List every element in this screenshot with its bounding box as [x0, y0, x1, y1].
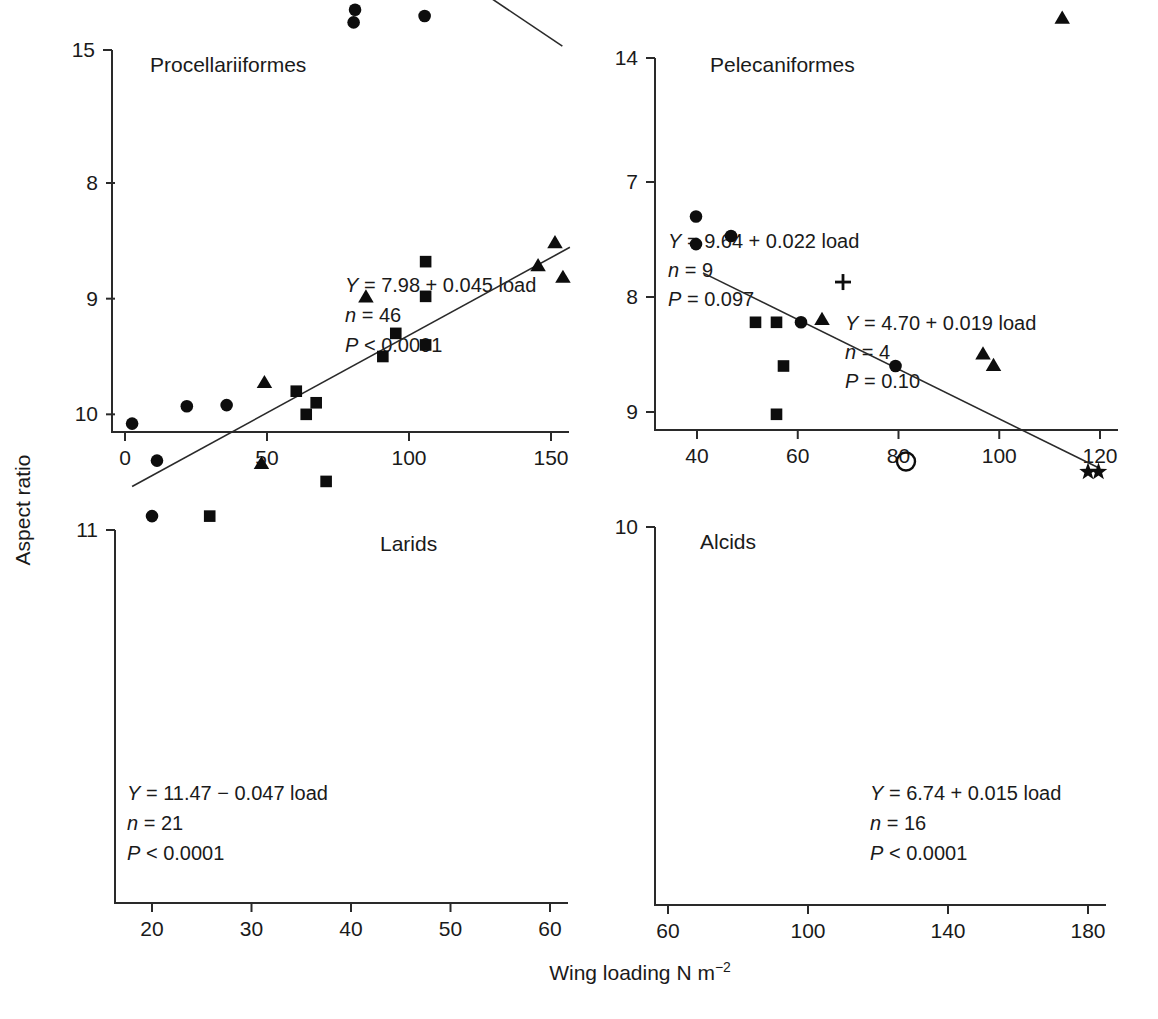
x-tick-label: 60 — [786, 444, 809, 467]
x-tick-label: 100 — [982, 444, 1017, 467]
data-point-square — [771, 317, 783, 329]
y-axis-title: Aspect ratio — [11, 455, 34, 566]
data-point-circle — [220, 399, 233, 412]
y-tick-label: 7 — [626, 170, 638, 193]
data-point-square — [420, 291, 432, 303]
x-tick-label: 100 — [391, 446, 426, 469]
panel-title: Alcids — [700, 530, 756, 553]
data-point-square — [750, 317, 762, 329]
x-tick-label: 40 — [685, 444, 708, 467]
y-tick-label: 10 — [75, 402, 98, 425]
data-point-square — [377, 351, 389, 363]
x-tick-label: 180 — [1070, 919, 1105, 942]
y-tick-label: 8 — [626, 285, 638, 308]
annotation-equation: Y = 6.74 + 0.015 load — [870, 782, 1061, 804]
data-point-square — [778, 360, 790, 372]
data-point-triangle — [547, 235, 563, 248]
x-tick-label: 60 — [656, 919, 679, 942]
regression-line — [159, 0, 562, 46]
panel-title: Pelecaniformes — [710, 53, 855, 76]
data-point-square — [420, 256, 432, 268]
annotation-n: n = 21 — [127, 812, 183, 834]
data-point-square — [771, 409, 783, 421]
figure-panel-grid: 691215050100150ProcellariiformesY = 7.98… — [0, 0, 1158, 1019]
data-point-circle — [181, 400, 194, 413]
x-tick-label: 20 — [140, 917, 163, 940]
x-axis-title: Wing loading N m−2 — [549, 959, 731, 984]
series-plus — [835, 274, 851, 290]
x-tick-label: 60 — [538, 917, 561, 940]
axis-spine — [112, 50, 569, 432]
series-circle — [154, 0, 568, 29]
data-point-circle — [347, 16, 360, 29]
panel-title: Procellariiformes — [150, 53, 306, 76]
annotation-p: P < 0.0001 — [127, 842, 224, 864]
data-point-square — [320, 476, 332, 488]
annotation-equation: Y = 7.98 + 0.045 load — [345, 274, 536, 296]
annotation2-p: P = 0.10 — [845, 370, 920, 392]
y-tick-label: 11 — [76, 518, 98, 541]
series-square — [750, 317, 790, 421]
data-point-circle — [126, 417, 139, 430]
x-tick-label: 150 — [533, 446, 568, 469]
multi-panel-scatter-figure: 691215050100150ProcellariiformesY = 7.98… — [0, 0, 1158, 1019]
data-point-circle — [146, 510, 159, 523]
x-tick-label: 30 — [240, 917, 263, 940]
data-point-circle — [795, 316, 808, 329]
annotation-n: n = 16 — [870, 812, 926, 834]
x-tick-label: 0 — [119, 446, 131, 469]
annotation-equation: Y = 11.47 − 0.047 load — [127, 782, 328, 804]
data-point-triangle — [975, 346, 991, 359]
data-point-circle — [418, 10, 431, 23]
data-point-square — [390, 328, 402, 340]
y-tick-label: 8 — [86, 171, 98, 194]
data-point-circle — [690, 238, 703, 251]
annotation-n: n = 9 — [668, 259, 713, 281]
y-tick-label: 9 — [86, 287, 98, 310]
y-tick-label: 9 — [626, 400, 638, 423]
data-point-triangle — [986, 358, 1002, 371]
data-point-square — [420, 339, 432, 351]
x-tick-label: 50 — [439, 917, 462, 940]
annotation2-equation: Y = 4.70 + 0.019 load — [845, 312, 1036, 334]
data-point-triangle — [1054, 10, 1070, 23]
data-point-triangle — [555, 270, 571, 283]
panel-alcids: 7891060100140180AlcidsY = 6.74 + 0.015 l… — [615, 170, 1108, 942]
annotation2-n: n = 4 — [845, 341, 890, 363]
data-point-square — [310, 397, 322, 409]
x-tick-label: 40 — [339, 917, 362, 940]
data-point-circle — [151, 454, 164, 467]
x-tick-label: 100 — [790, 919, 825, 942]
data-point-square — [300, 409, 312, 421]
data-point-square — [290, 385, 302, 397]
x-tick-label: 140 — [930, 919, 965, 942]
data-point-triangle — [257, 375, 273, 388]
annotation-n: n = 46 — [345, 304, 401, 326]
data-point-circle — [690, 210, 703, 223]
data-point-circle — [725, 230, 738, 243]
y-tick-label: 10 — [615, 515, 638, 538]
y-tick-label: 15 — [72, 38, 95, 61]
panel-title: Larids — [380, 532, 437, 555]
data-point-triangle — [814, 312, 830, 325]
y-tick-label: 14 — [615, 46, 639, 69]
annotation-p: P < 0.0001 — [870, 842, 967, 864]
series-triangle — [760, 0, 1070, 24]
data-point-circle — [889, 360, 902, 373]
regression-line — [703, 273, 1099, 468]
data-point-triangle — [530, 258, 546, 271]
panel-pelecaniformes: 68101214406080100120PelecaniformesY = 9.… — [615, 0, 1118, 467]
data-point-square — [204, 510, 216, 522]
data-point-circle — [349, 3, 362, 16]
